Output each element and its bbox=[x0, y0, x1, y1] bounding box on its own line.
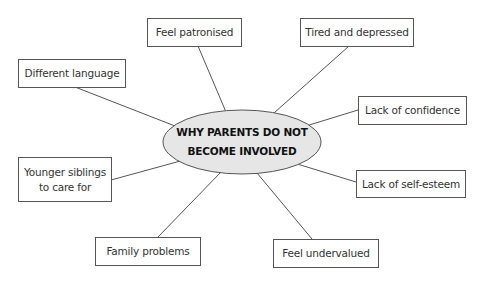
node-lack-of-self-esteem: Lack of self-esteem bbox=[356, 170, 466, 198]
node-tired-and-depressed: Tired and depressed bbox=[300, 18, 414, 47]
mind-map-diagram: WHY PARENTS DO NOT BECOME INVOLVED Feel … bbox=[0, 0, 483, 287]
node-family-problems: Family problems bbox=[95, 237, 201, 266]
center-topic-label: WHY PARENTS DO NOT BECOME INVOLVED bbox=[164, 110, 320, 174]
connector-tired-and-depressed bbox=[274, 46, 349, 113]
node-feel-undervalued: Feel undervalued bbox=[273, 239, 379, 268]
node-different-language: Different language bbox=[18, 59, 126, 88]
node-younger-siblings: Younger siblings to care for bbox=[18, 157, 112, 202]
node-lack-of-confidence: Lack of confidence bbox=[358, 96, 467, 125]
connector-feel-patronised bbox=[198, 46, 226, 112]
connector-feel-undervalued bbox=[257, 173, 312, 239]
connector-family-problems bbox=[158, 172, 221, 237]
node-feel-patronised: Feel patronised bbox=[147, 18, 242, 47]
connector-different-language bbox=[75, 87, 175, 126]
